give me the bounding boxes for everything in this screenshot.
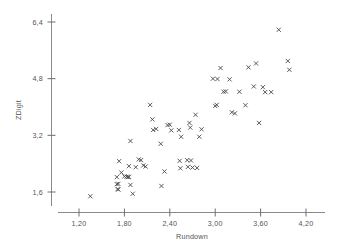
data-point-marker <box>246 65 250 69</box>
data-point-marker <box>237 90 241 94</box>
data-point-marker <box>150 117 154 121</box>
data-point-marker <box>197 135 201 139</box>
data-point-marker <box>178 159 182 163</box>
data-point-marker <box>159 142 163 146</box>
data-point-marker <box>148 103 152 107</box>
data-point-marker <box>195 166 199 170</box>
data-point-marker <box>159 184 163 188</box>
data-point-marker <box>199 127 203 131</box>
data-point-marker <box>187 121 191 125</box>
data-point-marker <box>128 183 132 187</box>
data-point-marker <box>117 159 121 163</box>
data-point-marker <box>115 175 119 179</box>
data-point-marker <box>134 165 138 169</box>
data-point-marker <box>243 103 247 107</box>
data-point-marker <box>186 165 190 169</box>
data-point-marker <box>261 85 265 89</box>
data-point-marker <box>254 61 258 65</box>
x-tick-label: 4,20 <box>299 219 314 228</box>
data-point-marker <box>287 68 291 72</box>
data-point-marker <box>218 66 222 70</box>
x-tick-label: 3,00 <box>208 219 223 228</box>
data-point-marker <box>189 158 193 162</box>
data-point-marker <box>263 90 267 94</box>
data-point-marker <box>179 135 183 139</box>
data-point-marker <box>215 103 219 107</box>
y-axis-ticks: 1,63,24,86,4 <box>32 18 55 197</box>
y-tick-label: 4,8 <box>32 74 43 83</box>
data-point-marker <box>286 59 290 63</box>
x-axis: 1,201,802,403,003,604,20 Rundown <box>58 209 325 242</box>
data-point-marker <box>169 128 173 132</box>
data-point-marker <box>257 121 261 125</box>
data-point-marker <box>88 194 92 198</box>
data-point-marker <box>119 170 123 174</box>
data-point-marker <box>277 28 281 32</box>
data-point-marker <box>178 166 182 170</box>
data-point-marker <box>193 113 197 117</box>
x-axis-title: Rundown <box>176 232 208 241</box>
y-tick-label: 1,6 <box>32 188 43 197</box>
chart-canvas: 1,63,24,86,4 ZDigit 1,201,802,403,003,60… <box>0 0 341 250</box>
data-point-marker <box>162 169 166 173</box>
data-points <box>88 28 291 199</box>
y-axis: 1,63,24,86,4 ZDigit <box>14 14 56 206</box>
y-tick-label: 6,4 <box>32 18 43 27</box>
data-point-marker <box>188 125 192 129</box>
data-point-marker <box>127 164 131 168</box>
y-axis-title: ZDigit <box>14 100 23 120</box>
data-point-marker <box>227 77 231 81</box>
x-tick-label: 1,80 <box>117 219 132 228</box>
y-tick-label: 3,2 <box>32 131 43 140</box>
scatter-plot-figure: 1,63,24,86,4 ZDigit 1,201,802,403,003,60… <box>0 0 341 250</box>
x-tick-label: 1,20 <box>72 219 87 228</box>
x-tick-label: 3,60 <box>253 219 268 228</box>
x-axis-ticks: 1,201,802,403,003,604,20 <box>72 209 314 229</box>
data-point-marker <box>128 139 132 143</box>
data-point-marker <box>215 77 219 81</box>
data-point-marker <box>131 192 135 196</box>
data-point-marker <box>190 165 194 169</box>
data-point-marker <box>177 128 181 132</box>
data-point-marker <box>252 84 256 88</box>
x-tick-label: 2,40 <box>162 219 177 228</box>
data-point-marker <box>211 77 215 81</box>
data-point-marker <box>269 90 273 94</box>
